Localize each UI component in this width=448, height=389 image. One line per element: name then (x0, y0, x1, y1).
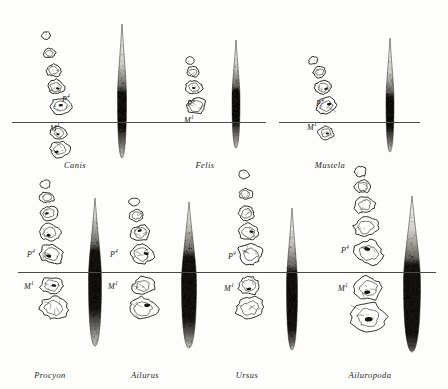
genus-label-ailuropoda: Ailuropoda (336, 370, 404, 380)
tooth-outline (353, 274, 383, 301)
tooth-outline (353, 179, 372, 195)
p4-label-superscript: 4 (346, 244, 349, 250)
tooth-outline (353, 165, 368, 179)
m1-label: M1 (338, 282, 348, 293)
tooth-outline (351, 236, 386, 267)
panel-ailuropoda (0, 0, 448, 389)
tooth-outline (349, 302, 389, 333)
tooth-outline (352, 215, 380, 237)
p4-label: P4 (341, 244, 349, 255)
tooth-outline (353, 195, 378, 215)
occlusal-reference-line (18, 272, 436, 273)
comparative-dentition-plate: P4M1CanisP4M1FelisP4M1MustelaP4M1Procyon… (0, 0, 448, 389)
m1-label-superscript: 1 (345, 282, 348, 288)
m1-label-base: M (338, 284, 345, 293)
density-spindle (404, 196, 421, 352)
